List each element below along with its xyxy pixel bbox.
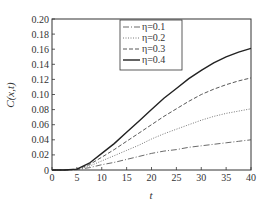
series-line-2 [52,78,251,170]
x-tick-label: 25 [171,172,181,183]
y-tick-label: 0.04 [32,134,50,145]
y-tick-label: 0.02 [32,149,50,160]
legend-label: η=0.1 [142,21,165,32]
legend-label: η=0.2 [142,32,165,43]
legend-label: η=0.4 [142,54,165,65]
y-axis-label: C(x,t) [4,82,17,108]
x-tick-label: 0 [50,172,55,183]
series-line-1 [52,109,251,170]
y-tick-label: 0 [44,165,49,176]
legend-label: η=0.3 [142,43,165,54]
y-tick-label: 0.08 [32,104,50,115]
x-tick-label: 20 [147,172,157,183]
x-tick-label: 30 [196,172,206,183]
y-tick-label: 0.14 [32,59,50,70]
y-tick-label: 0.16 [32,44,50,55]
x-tick-label: 5 [74,172,79,183]
y-tick-label: 0.18 [32,29,50,40]
y-tick-label: 0.12 [32,74,50,85]
x-tick-label: 40 [246,172,256,183]
y-tick-label: 0.10 [32,89,50,100]
y-tick-label: 0.20 [32,14,50,25]
x-tick-label: 10 [97,172,107,183]
y-tick-label: 0.06 [32,119,50,130]
x-tick-label: 35 [221,172,231,183]
legend: η=0.1η=0.2η=0.3η=0.4 [120,20,182,70]
x-axis-label: t [149,189,153,201]
line-chart: 051015202530354000.020.040.060.080.100.1… [0,0,270,203]
x-tick-label: 15 [122,172,132,183]
series-line-0 [52,140,251,170]
